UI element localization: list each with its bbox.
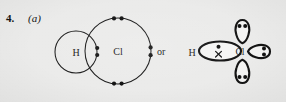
bonding-electron-dot [217,45,221,49]
hydrogen-atom-label: H [72,47,79,58]
orbital-hydrogen-label: H [188,47,195,58]
orbital-overlap-diagram: H Cl [188,20,270,83]
lone-pair-lobe-right-dot-lower [262,52,266,56]
lone-pair-lobe-top [236,20,250,43]
figure-container: 4. (a) H Cl or [0,0,286,102]
lone-pair-bottom-right-dot [120,82,124,86]
lone-pair-lobe-right-dot-upper [262,47,266,51]
orbital-chlorine-label: Cl [236,47,245,57]
chlorine-atom-label: Cl [113,46,123,57]
lone-pair-top-left-dot [112,16,116,20]
lone-pair-lobe-bottom-dot-right [243,75,247,79]
lewis-circle-diagram: H Cl [55,16,153,85]
or-conjunction: or [157,46,166,57]
lone-pair-top-right-dot [120,16,124,20]
lone-pair-lobe-bottom-dot-left [238,75,242,79]
lone-pair-lobe-top-dot-right [243,24,247,28]
lone-pair-right-lower-dot [149,53,153,57]
item-number: 4. [6,12,15,24]
lone-pair-bottom-left-dot [112,82,116,86]
shared-pair-dot-lower [95,53,99,57]
lone-pair-lobe-bottom [236,60,250,83]
part-label: (a) [28,12,41,25]
shared-pair-dot-upper [95,46,99,50]
lone-pair-lobe-top-dot-left [238,24,242,28]
lone-pair-right-upper-dot [149,45,153,49]
lone-pair-lobe-right [248,45,270,58]
hcl-bonding-figure: 4. (a) H Cl or [0,0,286,102]
